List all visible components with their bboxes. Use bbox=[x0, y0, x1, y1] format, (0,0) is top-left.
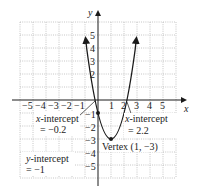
svg-text:5: 5 bbox=[90, 30, 95, 41]
svg-text:−2: −2 bbox=[61, 100, 72, 111]
xint-left-annotation: x-intercept = −0.2 bbox=[34, 112, 80, 136]
svg-text:x-intercept: x-intercept bbox=[35, 113, 79, 124]
svg-text:x-intercept: x-intercept bbox=[124, 113, 168, 124]
svg-text:= −0.2: = −0.2 bbox=[40, 124, 66, 135]
svg-text:−5: −5 bbox=[22, 100, 33, 111]
svg-text:y-intercept: y-intercept bbox=[25, 153, 69, 164]
vertex-annotation: Vertex (1, −3) bbox=[100, 141, 162, 153]
svg-text:4: 4 bbox=[90, 43, 95, 54]
svg-text:= 2.2: = 2.2 bbox=[128, 125, 149, 136]
curve-left-arrow bbox=[86, 40, 87, 50]
yint-annotation: y-intercept = −1 bbox=[22, 152, 74, 176]
parabola-graph: x y −5 −4 −3 −2 −1 1 2 3 4 5 5 4 3 2 −1 … bbox=[0, 0, 197, 191]
svg-text:−2: −2 bbox=[85, 122, 96, 133]
svg-text:Vertex (1, −3): Vertex (1, −3) bbox=[102, 141, 158, 153]
svg-text:−3: −3 bbox=[48, 100, 59, 111]
svg-text:−1: −1 bbox=[85, 109, 96, 120]
svg-text:3: 3 bbox=[134, 100, 139, 111]
y-axis-label: y bbox=[87, 7, 93, 18]
svg-text:1: 1 bbox=[109, 100, 114, 111]
svg-text:−4: −4 bbox=[85, 148, 96, 159]
svg-text:4: 4 bbox=[147, 100, 152, 111]
xint-right-annotation: x-intercept = 2.2 bbox=[124, 113, 180, 138]
svg-text:5: 5 bbox=[160, 100, 165, 111]
y-intercept-point bbox=[96, 111, 100, 115]
svg-text:= −1: = −1 bbox=[26, 164, 45, 175]
svg-text:3: 3 bbox=[90, 56, 95, 67]
svg-text:−4: −4 bbox=[35, 100, 46, 111]
svg-text:−3: −3 bbox=[85, 135, 96, 146]
svg-text:−1: −1 bbox=[74, 100, 85, 111]
curve-right-arrow bbox=[135, 40, 136, 50]
svg-text:−5: −5 bbox=[85, 161, 96, 172]
x-axis-label: x bbox=[183, 103, 189, 114]
